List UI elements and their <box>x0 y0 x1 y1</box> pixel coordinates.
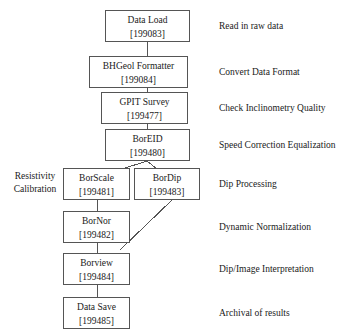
node-bhgeol-formatter-label: BHGeol Formatter <box>90 59 187 73</box>
node-borscale-code: [199481] <box>64 185 129 199</box>
description-boreid: Speed Correction Equalization <box>219 139 336 151</box>
node-gpit-survey-label: GPIT Survey <box>102 95 187 109</box>
node-data-load[interactable]: Data Load [199083] <box>105 10 190 42</box>
connector-borview-to-datasave <box>97 285 98 297</box>
connector-boreid-branches <box>0 0 356 334</box>
node-data-load-code: [199083] <box>106 27 189 41</box>
node-data-save[interactable]: Data Save [199485] <box>63 297 130 329</box>
node-gpit-survey[interactable]: GPIT Survey [199477] <box>101 92 188 124</box>
node-bordip-code: [199483] <box>135 185 199 199</box>
node-borview-code: [199484] <box>64 270 129 284</box>
description-bordip: Dip Processing <box>219 178 277 190</box>
description-borview: Dip/Image Interpretation <box>219 263 314 275</box>
description-gpit-survey: Check Inclinometry Quality <box>219 102 326 114</box>
node-data-load-label: Data Load <box>106 13 189 27</box>
node-bornor-code: [199482] <box>64 228 129 242</box>
description-data-load: Read in raw data <box>219 20 283 32</box>
node-boreid[interactable]: BorEID [199480] <box>105 129 190 161</box>
node-borscale[interactable]: BorScale [199481] <box>63 168 130 200</box>
node-data-save-label: Data Save <box>64 300 129 314</box>
node-bordip-label: BorDip <box>135 171 199 185</box>
node-bhgeol-formatter-code: [199084] <box>90 73 187 87</box>
flowchart-canvas: Data Load [199083] BHGeol Formatter [199… <box>0 0 356 334</box>
annotation-line-2: Calibration <box>8 183 62 196</box>
node-boreid-code: [199480] <box>106 146 189 160</box>
node-bornor-label: BorNor <box>64 214 129 228</box>
annotation-line-1: Resistivity <box>8 170 62 183</box>
node-borview-label: Borview <box>64 256 129 270</box>
node-bordip[interactable]: BorDip [199483] <box>134 168 200 200</box>
description-bornor: Dynamic Normalization <box>219 221 311 233</box>
node-data-save-code: [199485] <box>64 314 129 328</box>
node-borscale-label: BorScale <box>64 171 129 185</box>
node-gpit-survey-code: [199477] <box>102 109 187 123</box>
node-borview[interactable]: Borview [199484] <box>63 253 130 285</box>
node-bhgeol-formatter[interactable]: BHGeol Formatter [199084] <box>89 56 188 88</box>
description-bhgeol-formatter: Convert Data Format <box>219 66 300 78</box>
node-boreid-label: BorEID <box>106 132 189 146</box>
description-data-save: Archival of results <box>219 307 290 319</box>
node-bornor[interactable]: BorNor [199482] <box>63 211 130 243</box>
annotation-resistivity-calibration: Resistivity Calibration <box>8 170 62 196</box>
